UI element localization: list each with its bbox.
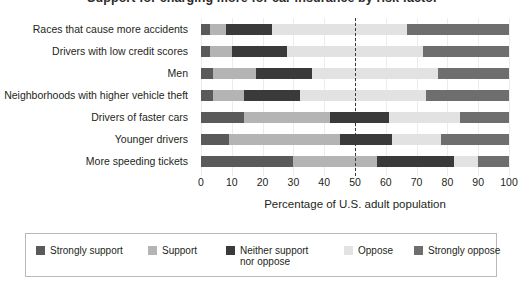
bar-segment: [213, 90, 244, 101]
bar-segment: [293, 156, 376, 167]
bar-row: Men: [0, 62, 525, 84]
legend-label: Oppose: [358, 245, 393, 256]
legend-item[interactable]: Oppose: [344, 245, 393, 256]
bar-segment: [407, 24, 509, 35]
bar-segment: [229, 134, 340, 145]
bar-segment: [312, 68, 438, 79]
bar-segment: [272, 24, 408, 35]
bar-row: Drivers of faster cars: [0, 106, 525, 128]
category-label: Younger drivers: [0, 128, 188, 150]
bar-segment: [201, 156, 293, 167]
bar-segment: [226, 24, 272, 35]
bar-segment: [392, 134, 441, 145]
category-label: Drivers with low credit scores: [0, 40, 188, 62]
category-label: Neighborhoods with higher vehicle theft: [0, 84, 188, 106]
bar-row: Races that cause more accidents: [0, 18, 525, 40]
bar-segment: [330, 112, 389, 123]
legend-swatch-icon: [414, 246, 423, 255]
bar-segment: [256, 68, 311, 79]
legend-swatch-icon: [36, 246, 45, 255]
bar-row: Younger drivers: [0, 128, 525, 150]
legend-item[interactable]: Strongly oppose: [414, 245, 500, 256]
bar-row: More speeding tickets: [0, 150, 525, 172]
bar-segment: [210, 46, 232, 57]
x-tick-label: 40: [318, 176, 330, 188]
bar-segment: [201, 24, 210, 35]
x-tick-label: 90: [472, 176, 484, 188]
x-tick-label: 20: [257, 176, 269, 188]
legend-swatch-icon: [226, 246, 235, 255]
x-axis-label: Percentage of U.S. adult population: [201, 198, 509, 210]
bar-segment: [244, 90, 299, 101]
bar-segment: [201, 68, 213, 79]
x-tick-label: 10: [226, 176, 238, 188]
legend-item[interactable]: Neither supportnor oppose: [226, 245, 308, 267]
bar-segment: [478, 156, 509, 167]
bar-segment: [201, 90, 213, 101]
legend-item[interactable]: Support: [148, 245, 197, 256]
bar-segment: [340, 134, 392, 145]
bar-segment: [201, 112, 244, 123]
legend-label: Strongly support: [50, 245, 123, 256]
bar-segment: [460, 112, 509, 123]
bar-segment: [300, 90, 426, 101]
bar-segment: [377, 156, 454, 167]
legend-item[interactable]: Strongly support: [36, 245, 123, 256]
bar-segment: [389, 112, 460, 123]
chart-legend: Strongly supportSupportNeither supportno…: [25, 233, 497, 277]
bar-row: Neighborhoods with higher vehicle theft: [0, 84, 525, 106]
category-label: Men: [0, 62, 188, 84]
x-tick-label: 100: [500, 176, 518, 188]
bar-segment: [441, 134, 509, 145]
x-tick-label: 50: [349, 176, 361, 188]
category-label: Races that cause more accidents: [0, 18, 188, 40]
x-tick-label: 80: [442, 176, 454, 188]
bar-segment: [213, 68, 256, 79]
plot-area: Races that cause more accidentsDrivers w…: [0, 18, 525, 176]
legend-swatch-icon: [148, 246, 157, 255]
bar-segment: [423, 46, 509, 57]
chart-root: Support for charging more for car insura…: [0, 0, 525, 285]
bar-segment: [201, 46, 210, 57]
chart-title: Support for charging more for car insura…: [0, 0, 525, 5]
category-label: More speeding tickets: [0, 150, 188, 172]
legend-label: Support: [162, 245, 197, 256]
bar-segment: [244, 112, 330, 123]
x-tick-label: 30: [288, 176, 300, 188]
legend-swatch-icon: [344, 246, 353, 255]
bar-segment: [201, 134, 229, 145]
bar-segment: [438, 68, 509, 79]
x-axis: 0102030405060708090100: [0, 176, 525, 192]
bar-row: Drivers with low credit scores: [0, 40, 525, 62]
legend-label: Strongly oppose: [428, 245, 500, 256]
x-tick-label: 0: [198, 176, 204, 188]
category-label: Drivers of faster cars: [0, 106, 188, 128]
bar-segment: [210, 24, 225, 35]
x-tick-label: 70: [411, 176, 423, 188]
bar-segment: [426, 90, 509, 101]
legend-label: Neither supportnor oppose: [240, 245, 308, 267]
bar-segment: [232, 46, 287, 57]
x-tick-label: 60: [380, 176, 392, 188]
reference-line-50: [355, 18, 356, 176]
bar-segment: [454, 156, 479, 167]
